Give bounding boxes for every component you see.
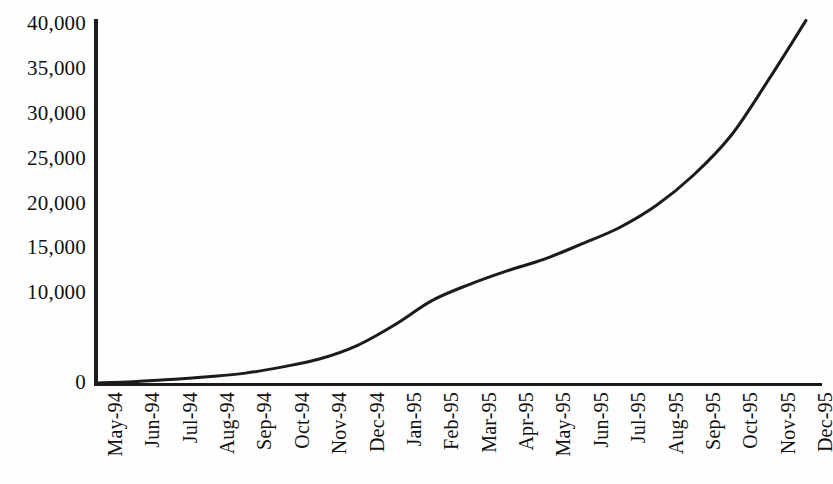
x-axis-tick-label: Mar-95 xyxy=(479,392,499,482)
y-axis-tick-label: 40,000 xyxy=(0,13,86,34)
y-axis-tick-label: 35,000 xyxy=(0,58,86,79)
y-axis-tick-label: 20,000 xyxy=(0,193,86,214)
y-axis-line xyxy=(94,19,98,385)
x-axis-tick-label: Dec-94 xyxy=(367,392,387,482)
x-axis-tick-label: Jun-95 xyxy=(591,392,611,482)
x-axis-tick-label: Jul-95 xyxy=(628,392,648,482)
x-axis-tick-label: Oct-94 xyxy=(292,392,312,482)
y-axis-tick-label: 0 xyxy=(0,372,86,393)
x-axis-tick-label: May-95 xyxy=(553,392,573,482)
x-axis-tick-label: Nov-94 xyxy=(329,392,349,482)
y-axis-tick-label: 30,000 xyxy=(0,103,86,124)
y-axis-tick-label: 15,000 xyxy=(0,237,86,258)
line-chart: 40,00035,00030,00025,00020,00015,00010,0… xyxy=(0,0,833,484)
x-axis-tick-label: Nov-95 xyxy=(778,392,798,482)
x-axis-tick-label: Apr-95 xyxy=(516,392,536,482)
x-axis-tick-label: Jul-94 xyxy=(180,392,200,482)
x-axis-tick-label: Jun-94 xyxy=(142,392,162,482)
x-axis-tick-label: Aug-95 xyxy=(666,392,686,482)
x-axis-tick-label: Oct-95 xyxy=(740,392,760,482)
x-axis-tick-label: May-94 xyxy=(105,392,125,482)
y-axis-tick-label: 25,000 xyxy=(0,148,86,169)
data-series-line xyxy=(96,20,806,383)
x-axis-tick-label: Jan-95 xyxy=(404,392,424,482)
x-axis-tick-label: Sep-94 xyxy=(254,392,274,482)
x-axis-tick-label: Sep-95 xyxy=(703,392,723,482)
x-axis-tick-label: Feb-95 xyxy=(441,392,461,482)
x-axis-line xyxy=(94,383,822,386)
x-axis-tick-label: Dec-95 xyxy=(815,392,833,482)
x-axis-tick-label: Aug-94 xyxy=(217,392,237,482)
y-axis-tick-label: 10,000 xyxy=(0,282,86,303)
